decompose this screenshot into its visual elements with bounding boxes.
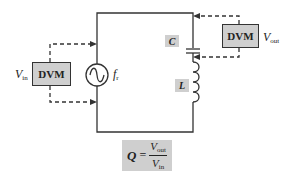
- dvm-input-meter: DVM: [32, 62, 71, 86]
- fraction: Vout Vin: [149, 140, 167, 171]
- probe-lead-left-bottom: [50, 86, 92, 102]
- probe-lead-right-top: [198, 16, 239, 24]
- vin-label: Vin: [15, 68, 28, 82]
- arrow-head-icon: [193, 54, 200, 60]
- inductor-coil-icon: [193, 62, 199, 102]
- denominator: Vin: [152, 156, 164, 171]
- wire-bottom: [97, 86, 193, 132]
- q-formula: Q = Vout Vin: [122, 140, 172, 171]
- equals-sign: =: [139, 148, 146, 163]
- q-symbol: Q: [127, 148, 136, 164]
- probe-lead-left-top: [50, 44, 92, 62]
- arrow-head-icon: [90, 99, 97, 105]
- probe-lead-right-bottom: [198, 48, 239, 57]
- dvm-input-label: DVM: [38, 68, 64, 80]
- inductor-label: L: [175, 79, 189, 92]
- dvm-output-meter: DVM: [222, 24, 259, 48]
- capacitor-label: C: [165, 35, 179, 47]
- dvm-output-label: DVM: [227, 30, 253, 42]
- source-frequency-label: fr: [113, 68, 119, 82]
- numerator: Vout: [149, 140, 167, 156]
- arrow-head-icon: [193, 13, 200, 19]
- arrow-head-icon: [90, 41, 97, 47]
- vout-label: Vout: [263, 31, 279, 45]
